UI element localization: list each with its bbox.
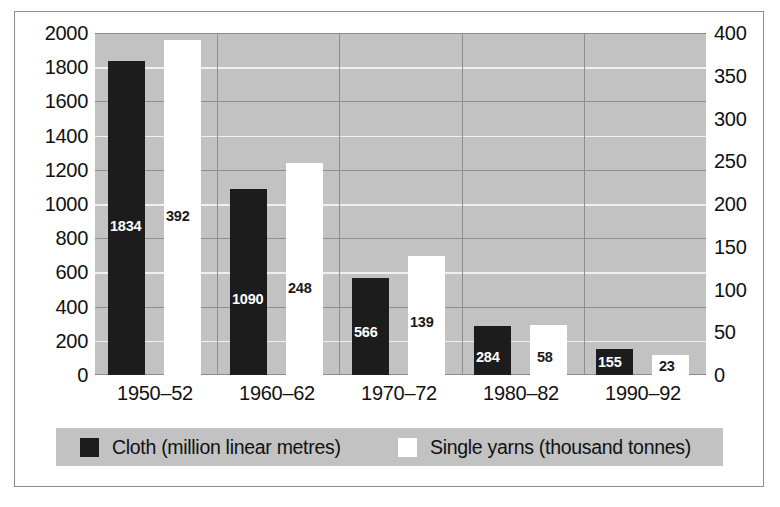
legend-item-cloth[interactable]: Cloth (million linear metres) [80, 428, 341, 466]
category-separator [217, 33, 218, 375]
left-axis-tick: 0 [77, 364, 88, 387]
category-separator [339, 33, 340, 375]
left-axis-tick: 1400 [45, 125, 88, 148]
left-axis-tick: 1200 [45, 159, 88, 182]
left-axis-tick: 800 [56, 227, 88, 250]
bar-value-label: 566 [354, 324, 378, 340]
legend-swatch-yarn-icon [398, 438, 417, 457]
right-axis-tick: 250 [714, 150, 746, 173]
legend-label: Single yarns (thousand tonnes) [430, 436, 691, 459]
chart-legend: Cloth (million linear metres) Single yar… [56, 428, 723, 466]
left-axis-tick: 200 [56, 330, 88, 353]
bar-value-label: 139 [410, 314, 434, 330]
right-axis-tick: 200 [714, 193, 746, 216]
category-label: 1980–82 [460, 382, 582, 405]
category-separator [462, 33, 463, 375]
bar-cloth[interactable] [230, 189, 267, 375]
category-label: 1970–72 [338, 382, 460, 405]
category-label: 1960–62 [216, 382, 338, 405]
left-value-axis: 2000 1800 1600 1400 1200 1000 800 600 40… [18, 33, 88, 375]
bar-value-label: 248 [288, 280, 312, 296]
left-axis-tick: 2000 [45, 22, 88, 45]
left-axis-tick: 600 [56, 261, 88, 284]
category-label: 1950–52 [94, 382, 216, 405]
bar-value-label: 1834 [110, 218, 141, 234]
plot-area: 1834 392 1090 248 566 139 284 58 155 23 [95, 33, 706, 375]
category-label: 1990–92 [582, 382, 704, 405]
right-axis-tick: 300 [714, 108, 746, 131]
right-axis-tick: 400 [714, 22, 746, 45]
chart-figure: 2000 1800 1600 1400 1200 1000 800 600 40… [0, 0, 780, 507]
legend-item-yarn[interactable]: Single yarns (thousand tonnes) [398, 428, 691, 466]
right-axis-tick: 350 [714, 65, 746, 88]
left-axis-tick: 1800 [45, 56, 88, 79]
bar-value-label: 1090 [232, 291, 263, 307]
left-axis-tick: 400 [56, 296, 88, 319]
bar-value-label: 155 [598, 354, 622, 370]
bar-yarn[interactable] [286, 163, 323, 375]
bar-value-label: 58 [537, 349, 553, 365]
bar-value-label: 23 [659, 358, 675, 374]
right-axis-tick: 50 [714, 321, 736, 344]
category-separator [584, 33, 585, 375]
right-axis-tick: 100 [714, 279, 746, 302]
bar-value-label: 284 [476, 349, 500, 365]
category-axis: 1950–52 1960–62 1970–72 1980–82 1990–92 [95, 382, 706, 412]
left-axis-tick: 1000 [45, 193, 88, 216]
right-axis-tick: 150 [714, 236, 746, 259]
legend-label: Cloth (million linear metres) [112, 436, 341, 459]
left-axis-tick: 1600 [45, 90, 88, 113]
right-axis-tick: 0 [714, 364, 725, 387]
legend-swatch-cloth-icon [80, 438, 99, 457]
right-value-axis: 400 350 300 250 200 150 100 50 0 [714, 33, 774, 375]
bar-value-label: 392 [166, 208, 190, 224]
gridline [95, 33, 706, 34]
